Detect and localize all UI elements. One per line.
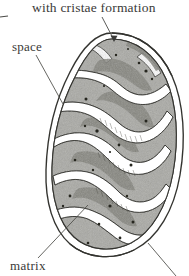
left-edge-tick: [0, 16, 8, 17]
matrix-compartments: [44, 30, 189, 260]
bottom-right-leader-line: [148, 243, 176, 276]
label-space: space: [12, 40, 42, 53]
mitochondrion-figure: with cristae formation space matrix: [0, 0, 189, 276]
space-leader-line: [36, 55, 63, 104]
label-with-cristae-formation: with cristae formation: [32, 1, 156, 15]
label-matrix: matrix: [10, 259, 46, 272]
